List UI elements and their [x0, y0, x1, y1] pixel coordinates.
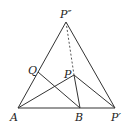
label-pprime: P′	[110, 111, 121, 124]
segment-pdoubleprime-pprime	[66, 22, 115, 108]
segment-p-pprime	[74, 75, 115, 108]
label-pdoubleprime: P″	[59, 8, 72, 21]
segment-q-b	[38, 72, 80, 108]
segment-a-pdoubleprime	[18, 22, 66, 108]
label-b: B	[74, 111, 83, 124]
geometry-diagram: A B P′ P″ P Q	[0, 0, 137, 126]
label-q: Q	[28, 64, 37, 77]
label-p: P	[63, 68, 72, 81]
label-a: A	[9, 111, 18, 124]
